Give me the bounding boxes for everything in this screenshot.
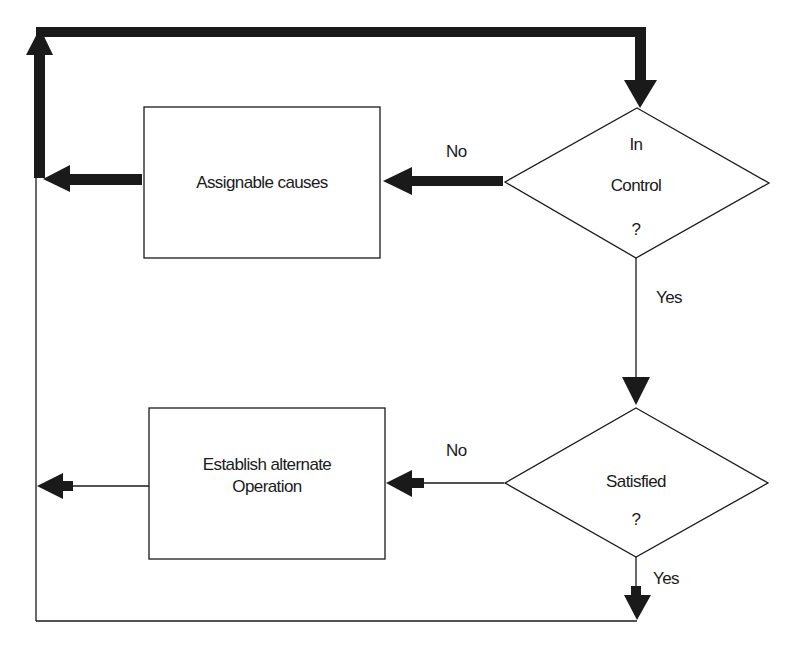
flowchart-canvas: [0, 0, 800, 655]
assignable-causes-label: Assignable causes: [144, 107, 380, 258]
satisfied-no-label: No: [446, 441, 467, 461]
satisfied-line1: Satisfied: [586, 472, 686, 492]
in-control-line2: Control: [596, 176, 676, 196]
assignable-causes-text: Assignable causes: [196, 172, 328, 194]
in-control-no-label: No: [446, 142, 467, 162]
in-control-line1: In: [596, 135, 676, 155]
in-control-yes-label: Yes: [656, 288, 682, 308]
establish-alternate-line2: Operation: [232, 476, 301, 498]
satisfied-yes-label: Yes: [653, 569, 679, 589]
satisfied-line2: ?: [596, 510, 676, 530]
in-control-line3: ?: [596, 220, 676, 240]
establish-alternate-label: Establish alternate Operation: [149, 400, 385, 551]
establish-alternate-line1: Establish alternate: [203, 454, 331, 476]
